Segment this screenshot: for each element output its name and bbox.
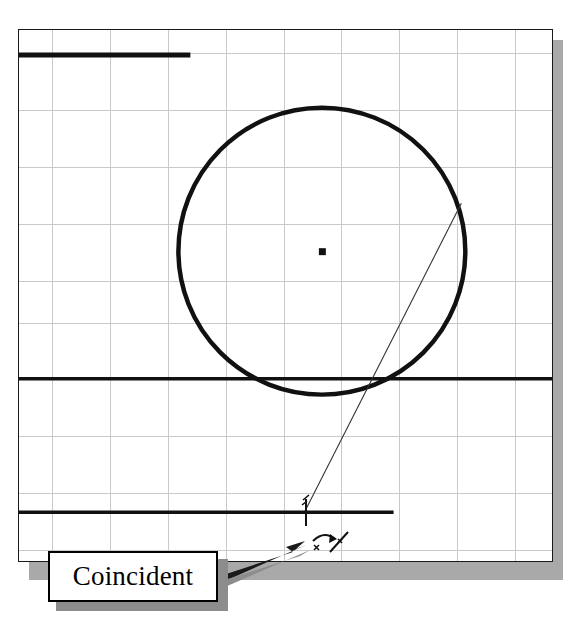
circle-center-point[interactable] [319,248,326,255]
sketch-geometry[interactable] [19,30,552,561]
screenshot-stage: Coincident [0,0,573,638]
coincident-callout-label: Coincident [73,563,193,590]
sketch-viewport[interactable] [18,29,553,562]
coincident-callout[interactable]: Coincident [48,551,218,602]
angled-construction-line[interactable] [305,203,461,511]
